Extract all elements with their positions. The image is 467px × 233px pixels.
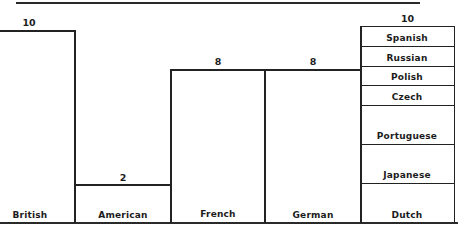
bar-value-french: 8 bbox=[170, 56, 266, 67]
stack-segment-polish: Polish bbox=[360, 66, 454, 85]
stack-segment-dutch: Dutch bbox=[360, 183, 454, 223]
stack-segment-spanish: Spanish bbox=[360, 26, 454, 46]
stack-segment-russian: Russian bbox=[360, 46, 454, 66]
bar-label-german: German bbox=[265, 210, 361, 220]
bar-value-stack: 10 bbox=[360, 13, 455, 24]
top-rule bbox=[16, 2, 420, 4]
bar-label-british: British bbox=[0, 210, 60, 220]
bar-label-french: French bbox=[170, 209, 266, 219]
stack-segment-portuguese: Portuguese bbox=[360, 105, 454, 144]
stack-segment-japanese: Japanese bbox=[360, 144, 454, 183]
bar-label-american: American bbox=[75, 210, 171, 220]
bar-value-german: 8 bbox=[265, 56, 361, 67]
stack-box: Spanish Russian Polish Czech Portuguese … bbox=[360, 26, 455, 223]
bar-value-american: 2 bbox=[75, 172, 171, 183]
bar-value-british: 10 bbox=[14, 17, 44, 28]
stack-segment-czech: Czech bbox=[360, 85, 454, 105]
